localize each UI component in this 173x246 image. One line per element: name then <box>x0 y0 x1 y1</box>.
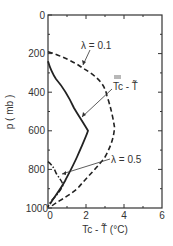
y-tick-labels: 0 200 400 600 800 1000 <box>26 10 49 214</box>
series-mean <box>48 61 88 204</box>
y-tick-0: 0 <box>39 10 45 21</box>
x-tick-4: 4 <box>121 210 127 221</box>
annotation-mean: Tc - T̃ <box>113 80 138 92</box>
x-tick-6: 6 <box>159 210 165 221</box>
y-tick-600: 600 <box>28 125 45 136</box>
x-axis-title: Tc - T̃ (°C) <box>82 223 127 235</box>
y-tick-400: 400 <box>28 87 45 98</box>
y-axis-title: p ( mb ) <box>4 95 15 129</box>
arrowhead-lambda05 <box>62 171 66 175</box>
chart-figure: 0 200 400 600 800 1000 0 2 4 6 Tc - T̃ (… <box>0 0 173 246</box>
leader-mean <box>82 89 112 117</box>
x-tick-0: 0 <box>47 210 53 221</box>
x-tick-2: 2 <box>83 210 89 221</box>
annotation-lambda-0.5: λ = 0.5 <box>111 154 142 165</box>
series-lambda-0.1 <box>48 52 115 206</box>
arrowhead-mean <box>82 112 86 117</box>
x-tick-labels: 0 2 4 6 <box>47 210 165 221</box>
annotation-lambda-0.1: λ = 0.1 <box>81 40 112 51</box>
y-tick-200: 200 <box>28 48 45 59</box>
y-tick-800: 800 <box>28 164 45 175</box>
y-tick-1000: 1000 <box>26 203 49 214</box>
leader-lambda05 <box>62 159 110 174</box>
